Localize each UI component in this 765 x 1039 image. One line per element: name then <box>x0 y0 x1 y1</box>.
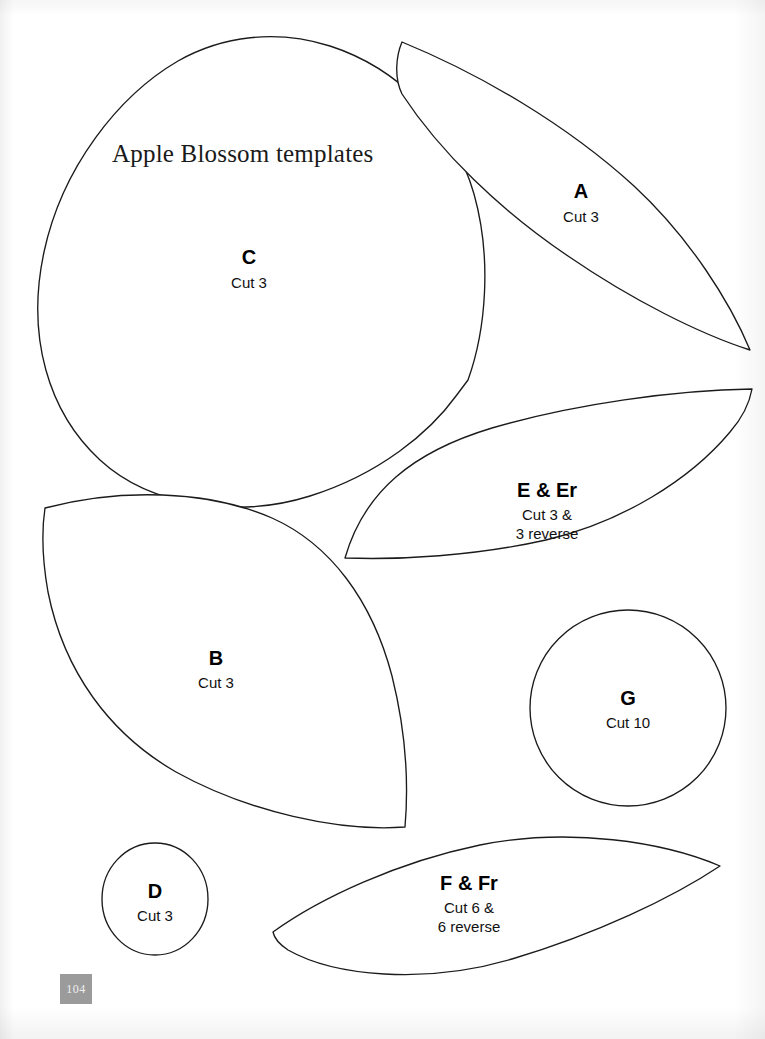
template-cut-e-line1: Cut 3 & <box>522 506 572 523</box>
template-letter-f: F & Fr <box>440 872 498 894</box>
template-cut-e-line2: 3 reverse <box>516 525 579 542</box>
template-letter-d: D <box>148 880 162 902</box>
template-cut-c-line1: Cut 3 <box>231 274 267 291</box>
page-number-text: 104 <box>66 983 86 995</box>
template-letter-c: C <box>242 246 256 268</box>
template-letter-e: E & Er <box>517 479 577 501</box>
template-cut-b-line1: Cut 3 <box>198 674 234 691</box>
sheet-title: Apple Blossom templates <box>112 140 374 167</box>
template-cut-g-line1: Cut 10 <box>606 714 650 731</box>
template-letter-g: G <box>620 687 636 709</box>
template-letter-a: A <box>574 180 588 202</box>
template-shapes-canvas: Apple Blossom templates C Cut 3 A Cut 3 … <box>0 0 765 1039</box>
template-sheet-page: Apple Blossom templates C Cut 3 A Cut 3 … <box>0 0 765 1039</box>
template-shape-g: G Cut 10 <box>530 610 726 806</box>
template-cut-a-line1: Cut 3 <box>563 208 599 225</box>
template-outline-f <box>273 837 720 975</box>
template-letter-b: B <box>209 647 223 669</box>
template-shape-f: F & Fr Cut 6 & 6 reverse <box>273 837 720 975</box>
template-cut-d-line1: Cut 3 <box>137 907 173 924</box>
page-number-badge: 104 <box>60 974 92 1004</box>
template-cut-f-line1: Cut 6 & <box>444 899 494 916</box>
template-shape-d: D Cut 3 <box>102 843 208 955</box>
template-cut-f-line2: 6 reverse <box>438 918 501 935</box>
